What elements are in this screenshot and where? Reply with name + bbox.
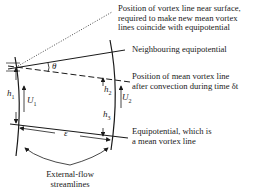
neighbouring-equipotential-line	[8, 50, 125, 69]
label-equipotential-mean: Equipotential, which is a mean vortex li…	[132, 127, 211, 146]
label-neighbouring-equipotential: Neighbouring equipotential	[132, 45, 227, 55]
label-vortex-near-surface: Position of vortex line near surface, re…	[118, 4, 241, 33]
vortex-near-surface-dotted-line	[18, 12, 112, 66]
symbol-epsilon: ε	[64, 128, 68, 138]
symbol-h1: h1	[7, 88, 15, 100]
symbol-h2: h2	[104, 84, 112, 96]
bottom-equipotential-line	[10, 124, 128, 138]
symbol-h3: h3	[103, 109, 111, 121]
mean-vortex-dashed-line	[8, 66, 130, 82]
symbol-U2: U2	[122, 92, 132, 104]
label-streamlines: External-flow streamlines	[40, 170, 100, 189]
symbol-theta: θ	[52, 61, 56, 71]
symbol-U1: U1	[27, 95, 37, 107]
label-mean-vortex-after: Position of mean vortex line after conve…	[132, 72, 238, 91]
